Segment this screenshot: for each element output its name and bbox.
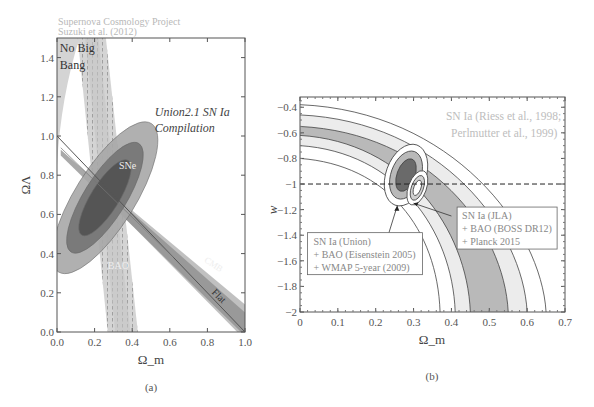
- y-tick-label-b: −1: [285, 178, 297, 190]
- annotation-bao: BAO: [108, 260, 129, 271]
- x-tick-label-a: 1.0: [238, 336, 252, 348]
- x-tick-label-a: 0.8: [201, 336, 215, 348]
- y-tick-label-b: −2: [285, 306, 297, 318]
- x-tick-label-a: 0.4: [125, 336, 139, 348]
- y-tick-label-b: −1.8: [277, 280, 297, 292]
- annotation-no-big-bang-2: Bang: [60, 58, 85, 72]
- y-tick-label-b: −1.6: [277, 255, 297, 267]
- x-tick-label-b: 0.2: [369, 316, 383, 328]
- x-tick-label-b: 0.7: [558, 316, 572, 328]
- y-tick-label-b: −0.4: [277, 101, 297, 113]
- x-axis-label-b: Ω_m: [419, 332, 445, 347]
- panel-a: Supernova Cosmology Project Suzuki et al…: [18, 16, 252, 394]
- y-axis-label-a: ΩΛ: [18, 175, 33, 195]
- legend-riess-1: SN Ia (Riess et al., 1998;: [446, 110, 561, 123]
- legend-union-line-2: + BAO (Eisenstein 2005): [314, 249, 416, 261]
- x-tick-label-b: 0.1: [331, 316, 345, 328]
- annotation-compilation-1: Union2.1 SN Ia: [155, 105, 230, 119]
- annotation-cmb: CMB: [203, 255, 225, 274]
- y-axis-label-b: w: [265, 205, 280, 214]
- legend-union-line-1: SN Ia (Union): [314, 236, 371, 248]
- x-tick-label-b: 0.4: [445, 316, 459, 328]
- figure: Supernova Cosmology Project Suzuki et al…: [0, 0, 594, 407]
- y-tick-label-b: −1.4: [277, 229, 297, 241]
- y-tick-label-a: 0.2: [40, 287, 54, 299]
- x-tick-label-b: 0: [297, 316, 303, 328]
- legend-riess-2: Perlmutter et al., 1999): [451, 127, 558, 140]
- x-axis-label-a: Ω_m: [138, 352, 164, 367]
- x-tick-label-b: 0.5: [482, 316, 496, 328]
- annotation-sne: SNe: [119, 160, 137, 171]
- legend-jla-line-1: SN Ia (JLA): [462, 210, 511, 222]
- y-tick-label-a: 1.2: [40, 91, 54, 103]
- y-tick-label-a: 1.0: [40, 130, 54, 142]
- header-line-2: Suzuki et al. (2012): [58, 26, 137, 38]
- plot-area-a: No BigBangUnion2.1 SN IaCompilationSNeBA…: [33, 38, 245, 340]
- y-tick-label-a: 0.0: [40, 326, 54, 338]
- x-tick-label-b: 0.6: [520, 316, 534, 328]
- y-tick-label-a: 1.4: [40, 52, 54, 64]
- panel-label-b: (b): [426, 370, 439, 383]
- y-tick-label-b: −0.8: [277, 152, 297, 164]
- legend-jla-line-3: + Planck 2015: [462, 236, 520, 247]
- y-tick-label-b: −1.2: [277, 204, 297, 216]
- legend-union-line-3: + WMAP 5-year (2009): [314, 262, 410, 274]
- plot-area-b: SN Ia (Riess et al., 1998;Perlmutter et …: [300, 105, 565, 312]
- panel-b: SN Ia (Riess et al., 1998;Perlmutter et …: [265, 97, 572, 383]
- x-tick-label-a: 0.6: [163, 336, 177, 348]
- legend-jla-line-2: + BAO (BOSS DR12): [462, 223, 552, 235]
- x-tick-label-b: 0.3: [407, 316, 421, 328]
- y-tick-label-a: 0.8: [40, 169, 54, 181]
- annotation-compilation-2: Compilation: [155, 121, 215, 135]
- annotation-no-big-bang-1: No Big: [60, 41, 95, 55]
- y-tick-label-a: 0.6: [40, 208, 54, 220]
- panel-label-a: (a): [145, 381, 158, 394]
- y-tick-label-b: −0.6: [277, 127, 297, 139]
- y-tick-label-a: 0.4: [40, 248, 54, 260]
- x-tick-label-a: 0.2: [88, 336, 102, 348]
